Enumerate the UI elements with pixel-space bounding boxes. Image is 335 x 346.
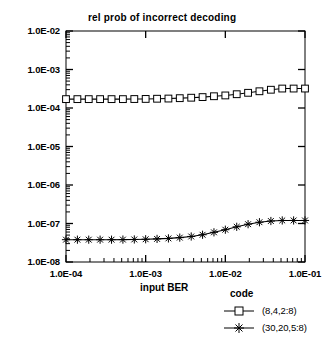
y-tick-label: 1.0E-04 [8, 102, 60, 113]
y-tick-label: 1.0E-03 [8, 64, 60, 75]
y-tick-label: 1.0E-02 [8, 25, 60, 36]
chart-figure: rel prob of incorrect decoding 1.0E-021.… [0, 0, 335, 346]
legend-item-square: (8,4,2:8) [222, 302, 334, 319]
x-tick-label: 1.0E-03 [116, 268, 176, 279]
x-tick-label: 1.0E-02 [195, 268, 255, 279]
legend-marker-square [222, 304, 256, 318]
legend-label-1: (30,20,5:8) [262, 322, 307, 333]
legend-label-0: (8,4,2:8) [262, 305, 296, 316]
y-tick-label: 1.0E-05 [8, 141, 60, 152]
legend-title: code [230, 288, 334, 299]
series-square [63, 85, 309, 102]
y-tick-label: 1.0E-08 [8, 256, 60, 267]
legend-marker-star [222, 321, 256, 335]
x-tick-label: 1.0E-04 [36, 268, 96, 279]
legend-item-star: (30,20,5:8) [222, 319, 334, 336]
y-tick-label: 1.0E-07 [8, 218, 60, 229]
chart-title: rel prob of incorrect decoding [88, 12, 236, 23]
x-tick-label: 1.0E-01 [275, 268, 335, 279]
plot-axes [66, 31, 305, 262]
series-star [62, 216, 309, 243]
y-tick-label: 1.0E-06 [8, 179, 60, 190]
axis-ticks [66, 31, 305, 262]
x-axis-label: input BER [140, 282, 188, 293]
chart-legend: code (8,4,2:8) [222, 288, 334, 336]
data-series-group [62, 85, 309, 244]
